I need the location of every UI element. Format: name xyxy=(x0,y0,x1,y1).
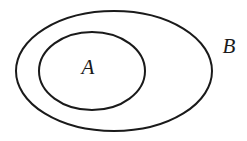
set-label-b: B xyxy=(223,34,236,58)
venn-diagram-svg: B A xyxy=(0,0,247,141)
set-label-a: A xyxy=(80,55,95,79)
outer-set-ellipse-b xyxy=(16,11,212,131)
venn-diagram-canvas: B A xyxy=(0,0,247,141)
